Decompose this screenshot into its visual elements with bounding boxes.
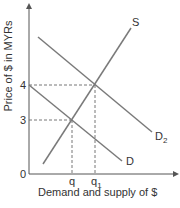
- tick-3: 3: [20, 115, 26, 126]
- label-D: D: [126, 156, 134, 167]
- tick-4: 4: [20, 80, 26, 91]
- y-axis-label: Price of $ in MYRs: [2, 16, 14, 116]
- supply-line-S: [43, 28, 131, 164]
- label-S: S: [132, 17, 139, 28]
- label-D2: D2: [155, 131, 167, 145]
- demand-line-D: [29, 85, 122, 161]
- chart-canvas: [0, 0, 180, 208]
- tick-0: 0: [20, 169, 26, 180]
- x-axis-label: Demand and supply of $: [38, 186, 157, 198]
